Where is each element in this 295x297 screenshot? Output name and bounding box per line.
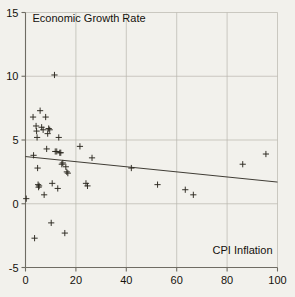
tick-marks	[22, 13, 278, 272]
x-tick-label: 80	[221, 274, 233, 286]
data-point-marker	[89, 155, 95, 161]
axis-titles: Economic Growth RateCPI Inflation	[33, 12, 273, 256]
data-point-marker	[44, 146, 50, 152]
data-points	[23, 72, 269, 241]
data-point-marker	[263, 151, 269, 157]
x-tick-label: 100	[268, 274, 286, 286]
data-point-marker	[54, 148, 60, 154]
data-point-marker	[77, 143, 83, 149]
data-point-marker	[33, 123, 39, 129]
gridlines	[26, 13, 278, 268]
y-tick-label: 15	[6, 7, 18, 19]
data-point-marker	[33, 128, 39, 134]
y-tick-label: 5	[12, 134, 18, 146]
x-axis-title: CPI Inflation	[213, 244, 273, 256]
data-point-marker	[62, 230, 68, 236]
data-point-marker	[55, 185, 61, 191]
y-tick-label: -5	[9, 262, 19, 274]
x-tick-label: 40	[120, 274, 132, 286]
data-point-marker	[46, 125, 52, 131]
data-point-marker	[154, 182, 160, 188]
data-point-marker	[182, 187, 188, 193]
y-tick-label: 0	[12, 198, 18, 210]
trendline	[26, 157, 278, 183]
data-point-marker	[34, 134, 40, 140]
data-point-marker	[48, 220, 54, 226]
data-point-marker	[65, 170, 71, 176]
data-point-marker	[34, 165, 40, 171]
y-tick-label: 10	[6, 70, 18, 82]
data-point-marker	[36, 183, 42, 189]
data-point-marker	[58, 150, 64, 156]
data-point-marker	[41, 192, 47, 198]
data-point-marker	[56, 134, 62, 140]
data-point-marker	[23, 196, 29, 202]
x-tick-label: 20	[70, 274, 82, 286]
y-axis-title: Economic Growth Rate	[33, 12, 146, 24]
data-point-marker	[190, 192, 196, 198]
x-tick-label: 0	[22, 274, 28, 286]
scatter-chart: 020406080100-5051015Economic Growth Rate…	[0, 0, 295, 297]
data-point-marker	[49, 180, 55, 186]
data-point-marker	[43, 114, 49, 120]
data-point-marker	[31, 235, 37, 241]
data-point-marker	[51, 72, 57, 78]
data-point-marker	[240, 161, 246, 167]
x-tick-label: 60	[171, 274, 183, 286]
chart-canvas: 020406080100-5051015Economic Growth Rate…	[0, 0, 295, 297]
data-point-marker	[64, 169, 70, 175]
data-point-marker	[37, 108, 43, 114]
data-point-marker	[128, 165, 134, 171]
data-point-marker	[30, 114, 36, 120]
